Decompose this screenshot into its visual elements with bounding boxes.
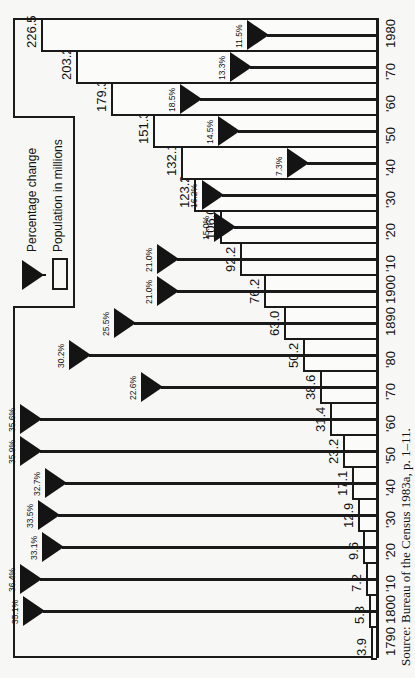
legend-triangle-stem — [40, 274, 46, 276]
percent-change-label: 35.6% — [8, 408, 17, 432]
percent-change-label: 33.1% — [30, 536, 39, 560]
percent-change-triangle-icon — [114, 308, 136, 338]
year-label: 1890 — [384, 307, 397, 336]
year-label: 1980 — [384, 19, 397, 48]
percent-change-label: 25.5% — [102, 312, 111, 336]
percent-change-stem — [40, 578, 377, 581]
percent-change-stem — [40, 450, 377, 453]
population-label: 7.2 — [350, 574, 363, 592]
population-label: 3.9 — [355, 638, 368, 656]
percent-change-label: 13.3% — [218, 56, 227, 80]
legend-label-population: Population in millions — [52, 139, 64, 252]
percent-change-triangle-icon — [180, 84, 202, 114]
percent-change-stem — [62, 546, 377, 549]
percent-change-triangle-icon — [69, 340, 91, 370]
percent-change-label: 30.2% — [57, 344, 66, 368]
percent-change-label: 22.6% — [129, 376, 138, 400]
percent-change-stem — [177, 258, 378, 261]
percent-change-triangle-icon — [202, 180, 224, 210]
population-label: 5.3 — [353, 606, 366, 624]
year-label: '30 — [384, 511, 397, 528]
percent-change-label: 16.2% — [190, 184, 199, 208]
percent-change-triangle-icon — [157, 276, 179, 306]
year-label: '60 — [384, 95, 397, 112]
percent-change-stem — [200, 98, 377, 101]
year-label: 1900 — [384, 275, 397, 304]
percent-change-triangle-icon — [247, 20, 269, 50]
year-label: '20 — [384, 543, 397, 560]
year-label: '10 — [384, 575, 397, 592]
percent-change-triangle-icon — [45, 468, 67, 498]
percent-change-label: 32.7% — [33, 472, 42, 496]
population-label: 132.1 — [165, 143, 178, 176]
year-label: '10 — [384, 255, 397, 272]
percent-change-label: 14.5% — [206, 120, 215, 144]
percent-change-stem — [234, 226, 378, 229]
year-label: '50 — [384, 127, 397, 144]
percent-change-stem — [267, 34, 377, 37]
percent-change-stem — [134, 322, 377, 325]
percent-change-stem — [177, 290, 378, 293]
legend-label-percentage: Percentage change — [26, 148, 38, 252]
percent-change-stem — [238, 130, 377, 133]
year-label: '40 — [384, 159, 397, 176]
percent-change-label: 18.5% — [168, 88, 177, 112]
percent-change-triangle-icon — [157, 244, 179, 274]
year-label: '80 — [384, 351, 397, 368]
percent-change-stem — [65, 482, 377, 485]
year-label: '50 — [384, 447, 397, 464]
percent-change-triangle-icon — [214, 212, 236, 242]
percent-change-stem — [40, 418, 377, 421]
percent-change-label: 35.9% — [8, 440, 17, 464]
percent-change-stem — [161, 386, 377, 389]
percent-change-triangle-icon — [20, 564, 42, 594]
percent-change-stem — [307, 162, 377, 165]
percent-change-label: 15.0% — [202, 216, 211, 240]
percent-change-triangle-icon — [218, 116, 240, 146]
percent-change-stem — [222, 194, 377, 197]
population-label: 203.2 — [60, 47, 73, 80]
percent-change-triangle-icon — [141, 372, 163, 402]
percent-change-label: 36.4% — [8, 568, 17, 592]
percent-change-triangle-icon — [20, 404, 42, 434]
percent-change-label: 33.5% — [26, 504, 35, 528]
population-chart: 3.917905.3180035.1%7.2'1036.4%9.6'2033.1… — [0, 0, 415, 678]
percent-change-stem — [43, 610, 377, 613]
percent-change-label: 21.0% — [145, 248, 154, 272]
year-label: '30 — [384, 191, 397, 208]
percent-change-stem — [58, 514, 377, 517]
percent-change-triangle-icon — [23, 596, 45, 626]
baseline-axis — [376, 18, 379, 658]
year-label: '70 — [384, 383, 397, 400]
percent-change-triangle-icon — [42, 532, 64, 562]
percent-change-label: 21.0% — [145, 280, 154, 304]
percent-change-stem — [89, 354, 377, 357]
year-label: '60 — [384, 415, 397, 432]
year-label: 1800 — [384, 595, 397, 624]
percent-change-stem — [250, 66, 377, 69]
percent-change-label: 11.5% — [235, 25, 244, 48]
population-label: 179.3 — [95, 79, 108, 112]
percent-change-triangle-icon — [287, 148, 309, 178]
population-label: 151.3 — [137, 111, 150, 144]
year-label: '20 — [384, 223, 397, 240]
population-label: 226.5 — [25, 15, 38, 48]
percent-change-label: 35.1% — [11, 600, 20, 624]
percent-change-label: 7.3% — [275, 157, 284, 176]
population-label: 9.6 — [347, 542, 360, 560]
percent-change-triangle-icon — [38, 500, 60, 530]
year-label: '70 — [384, 63, 397, 80]
rectangle-marker-icon — [52, 258, 68, 290]
percent-change-triangle-icon — [230, 52, 252, 82]
year-label: '40 — [384, 479, 397, 496]
source-note: Source: Bureau of the Census 1983a, p. 1… — [399, 428, 412, 666]
percent-change-triangle-icon — [20, 436, 42, 466]
year-label: 1790 — [384, 627, 397, 656]
